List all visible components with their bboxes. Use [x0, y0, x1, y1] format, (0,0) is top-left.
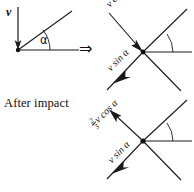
implies-arrow-icon: ⇒ — [79, 41, 92, 57]
tangential-component-arrowhead-icon — [114, 71, 132, 84]
before-impact-diagram: v α — [0, 0, 90, 90]
tangential-component-line-upper — [144, 142, 181, 180]
physics-impact-figure: v α ⇒ α v cos α v sin α After impact — [0, 0, 194, 192]
impact-vertex-dot — [140, 138, 145, 143]
tangential-component-line-upper — [144, 53, 181, 91]
angle-arc — [167, 123, 173, 141]
impact-vertex-dot — [141, 50, 146, 55]
velocity-label: v — [6, 6, 11, 18]
inclined-surface-line — [143, 9, 187, 52]
impact-vertex-dot — [16, 48, 20, 52]
velocity-decomposition-diagram: α — [95, 0, 194, 96]
decomposition-svg — [95, 0, 194, 96]
angle-label: α — [40, 35, 48, 47]
angle-arc — [167, 34, 173, 52]
inclined-surface-line — [143, 100, 187, 141]
after-impact-caption: After impact — [4, 97, 69, 110]
